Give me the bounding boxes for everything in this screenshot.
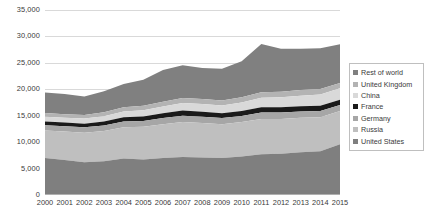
- x-axis-tick-labels: 2000200120022003200420052006200720082009…: [45, 198, 340, 212]
- series-layers: [45, 10, 340, 195]
- y-axis-tick-label: 25,000: [2, 59, 40, 67]
- x-axis-tick-label: 2015: [332, 198, 348, 207]
- y-axis-tick-label: 20,000: [2, 85, 40, 93]
- legend-swatch-icon: [353, 139, 358, 144]
- y-axis-tick-label: 35,000: [2, 6, 40, 14]
- legend-item[interactable]: United States: [353, 135, 421, 146]
- x-axis-tick-label: 2002: [76, 198, 92, 207]
- x-axis-tick-label: 2000: [37, 198, 53, 207]
- legend-item-label: Germany: [361, 114, 391, 123]
- legend-swatch-icon: [353, 116, 358, 121]
- y-axis-tick-label: 0: [2, 191, 40, 199]
- legend-item-label: Rest of world: [361, 68, 403, 77]
- legend-item-label: United States: [361, 137, 404, 146]
- y-axis-tick-label: 10,000: [2, 138, 40, 146]
- x-axis-tick-label: 2009: [214, 198, 230, 207]
- legend-item-label: France: [361, 102, 383, 111]
- legend-item-label: China: [361, 91, 380, 100]
- x-axis-tick-label: 2008: [194, 198, 210, 207]
- legend-swatch-icon: [353, 82, 358, 87]
- legend-item[interactable]: China: [353, 90, 421, 101]
- x-axis-tick-label: 2010: [233, 198, 249, 207]
- legend-item[interactable]: Germany: [353, 113, 421, 124]
- stacked-area-chart: 05,00010,00015,00020,00025,00030,00035,0…: [0, 0, 428, 220]
- x-axis-tick-label: 2011: [253, 198, 269, 207]
- plot-area: [45, 10, 340, 195]
- y-axis-tick-label: 15,000: [2, 112, 40, 120]
- x-axis-tick-label: 2001: [56, 198, 72, 207]
- x-axis-tick-label: 2006: [155, 198, 171, 207]
- legend-item[interactable]: France: [353, 101, 421, 112]
- legend-swatch-icon: [353, 93, 358, 98]
- x-axis-line: [45, 194, 340, 195]
- chart-legend: Rest of worldUnited KingdomChinaFranceGe…: [349, 63, 424, 151]
- x-axis-tick-label: 2003: [96, 198, 112, 207]
- legend-item[interactable]: Russia: [353, 124, 421, 135]
- legend-item[interactable]: United Kingdom: [353, 78, 421, 89]
- x-axis-tick-label: 2013: [292, 198, 308, 207]
- y-axis-tick-label: 30,000: [2, 32, 40, 40]
- x-axis-tick-label: 2012: [273, 198, 289, 207]
- legend-swatch-icon: [353, 104, 358, 109]
- legend-item-label: Russia: [361, 125, 383, 134]
- legend-item-label: United Kingdom: [361, 80, 412, 89]
- x-axis-tick-label: 2014: [312, 198, 328, 207]
- legend-swatch-icon: [353, 70, 358, 75]
- legend-item[interactable]: Rest of world: [353, 67, 421, 78]
- x-axis-tick-label: 2007: [174, 198, 190, 207]
- x-axis-tick-label: 2004: [115, 198, 131, 207]
- y-axis-tick-label: 5,000: [2, 165, 40, 173]
- x-axis-tick-label: 2005: [135, 198, 151, 207]
- legend-swatch-icon: [353, 127, 358, 132]
